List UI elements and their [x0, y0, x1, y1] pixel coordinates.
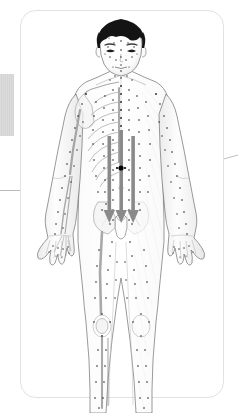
- patella-bone: [96, 319, 108, 334]
- head: [96, 19, 146, 76]
- child-body-front-view: [20, 10, 224, 413]
- right-arm: [159, 94, 205, 265]
- figure-graphic: [37, 19, 204, 413]
- illustration-viewport: [0, 0, 238, 413]
- left-edge-placeholder: [0, 74, 14, 136]
- downward-flow-arrows: [104, 130, 139, 223]
